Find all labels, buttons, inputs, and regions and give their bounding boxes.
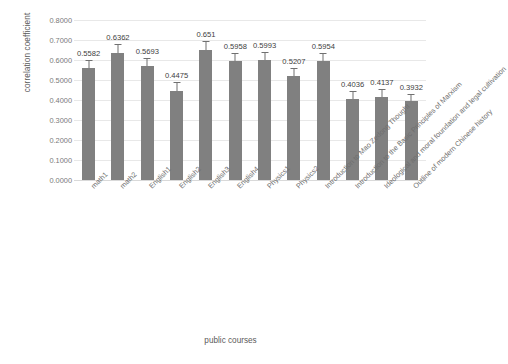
bar-value-label: 0.4036: [341, 80, 364, 89]
error-bar: [176, 82, 177, 90]
y-axis-tick-label: 0.2000: [28, 136, 72, 145]
error-bar: [235, 53, 236, 61]
y-axis-tick-label: 0.4000: [28, 96, 72, 105]
bar-value-label: 0.4475: [165, 71, 188, 80]
bar-value-label: 0.5693: [136, 47, 159, 56]
error-bar-cap: [202, 41, 209, 42]
y-axis-tick-label: 0.0000: [28, 176, 72, 185]
y-axis-tick-label: 0.8000: [28, 16, 72, 25]
bar[interactable]: [229, 61, 242, 180]
y-axis-tick-label: 0.3000: [28, 116, 72, 125]
bar-slot: 0.5958: [221, 20, 250, 180]
bar-slot: 0.5993: [250, 20, 279, 180]
bar[interactable]: [258, 60, 271, 180]
bar[interactable]: [141, 66, 154, 180]
plot-area: 0.55820.63620.56930.44750.6510.59580.599…: [74, 20, 426, 180]
bar-value-label: 0.5207: [282, 57, 305, 66]
error-bar-cap: [408, 94, 415, 95]
error-bar: [352, 91, 353, 99]
bar-series: 0.55820.63620.56930.44750.6510.59580.599…: [74, 20, 426, 180]
bar-value-label: 0.6362: [106, 33, 129, 42]
bar-value-label: 0.5582: [77, 49, 100, 58]
error-bar: [293, 68, 294, 76]
bar-value-label: 0.5958: [224, 42, 247, 51]
bar-slot: 0.6362: [103, 20, 132, 180]
bar-value-label: 0.5954: [312, 42, 335, 51]
y-axis-tick-labels: 0.80000.70000.60000.50000.40000.30000.20…: [28, 0, 72, 364]
error-bar: [264, 52, 265, 60]
y-axis-tick-label: 0.1000: [28, 156, 72, 165]
bar[interactable]: [199, 50, 212, 180]
bar-value-label: 0.4137: [370, 78, 393, 87]
error-bar-cap: [85, 60, 92, 61]
bar[interactable]: [287, 76, 300, 180]
bar[interactable]: [317, 61, 330, 180]
bar-slot: 0.5693: [133, 20, 162, 180]
bar-slot: 0.5582: [74, 20, 103, 180]
x-axis-title: public courses: [0, 336, 461, 345]
bar-slot: 0.4475: [162, 20, 191, 180]
bar-slot: 0.5207: [279, 20, 308, 180]
bar[interactable]: [111, 53, 124, 180]
error-bar-cap: [349, 91, 356, 92]
bar-value-label: 0.3932: [400, 83, 423, 92]
bar[interactable]: [170, 91, 183, 181]
x-axis-tick-labels: math1math2English1English2English3Englis…: [74, 182, 426, 332]
error-bar-cap: [173, 82, 180, 83]
error-bar: [411, 94, 412, 102]
bar-slot: 0.651: [191, 20, 220, 180]
y-axis-tick-label: 0.5000: [28, 76, 72, 85]
error-bar: [147, 58, 148, 67]
error-bar: [381, 89, 382, 97]
error-bar-cap: [320, 53, 327, 54]
bar[interactable]: [82, 68, 95, 180]
bar-slot: 0.5954: [309, 20, 338, 180]
error-bar-cap: [232, 53, 239, 54]
bar-value-label: 0.5993: [253, 41, 276, 50]
error-bar-cap: [114, 44, 121, 45]
error-bar: [323, 53, 324, 61]
error-bar: [117, 44, 118, 53]
error-bar-cap: [144, 58, 151, 59]
y-axis-tick-label: 0.7000: [28, 36, 72, 45]
y-axis-tick-label: 0.6000: [28, 56, 72, 65]
error-bar-cap: [261, 52, 268, 53]
error-bar-cap: [378, 89, 385, 90]
error-bar: [88, 60, 89, 69]
error-bar-cap: [290, 68, 297, 69]
bar-value-label: 0.651: [196, 30, 215, 39]
error-bar: [205, 41, 206, 50]
